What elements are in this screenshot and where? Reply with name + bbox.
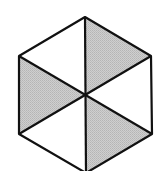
hexagon-diagram <box>0 0 160 171</box>
